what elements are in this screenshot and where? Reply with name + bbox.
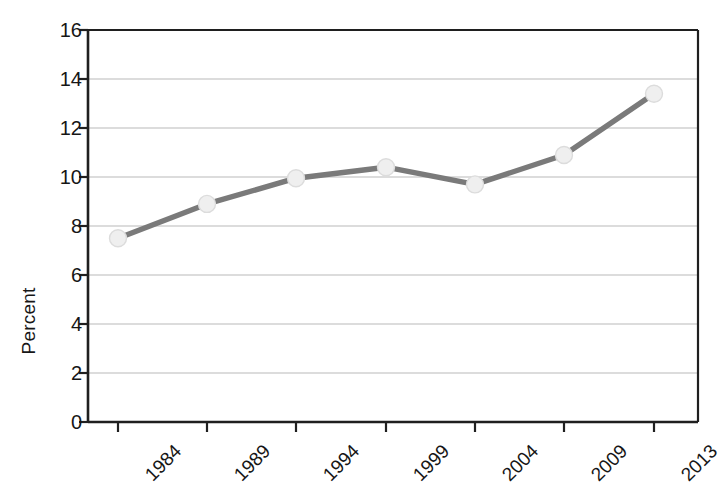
y-axis-tick-labels: 16 14 12 10 8 6 4 2 0 <box>36 0 82 498</box>
y-tick-label: 0 <box>42 412 82 432</box>
data-point-marker <box>556 147 573 164</box>
data-point-marker <box>288 170 305 187</box>
y-tick-label: 2 <box>42 363 82 383</box>
data-point-marker <box>646 85 663 102</box>
y-tick-label: 8 <box>42 216 82 236</box>
data-point-marker <box>467 176 484 193</box>
data-point-marker <box>199 195 216 212</box>
data-point-markers <box>110 85 663 247</box>
y-tick-label: 6 <box>42 265 82 285</box>
y-tick-label: 14 <box>42 69 82 89</box>
x-tick-marks <box>118 422 654 432</box>
y-tick-label: 12 <box>42 118 82 138</box>
y-tick-label: 16 <box>42 20 82 40</box>
y-tick-label: 4 <box>42 314 82 334</box>
y-tick-label: 10 <box>42 167 82 187</box>
data-point-marker <box>110 230 127 247</box>
data-point-marker <box>378 159 395 176</box>
